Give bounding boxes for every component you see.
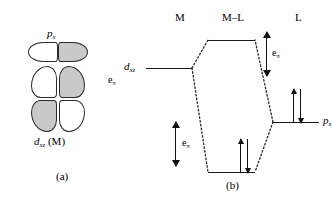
p-subscript: x xyxy=(53,33,56,40)
d-orbital-upper-left-lobe-icon xyxy=(31,66,57,98)
panel-b-mo-diagram: M M–L L dxz px eπ xyxy=(160,0,331,203)
pi-subscript-right: π xyxy=(276,52,279,59)
energy-gap-arrow-left xyxy=(175,122,176,166)
e-pi-label-left: eπ xyxy=(182,138,190,149)
e-pi-label-right: eπ xyxy=(272,48,280,59)
pi-subscript-a: π xyxy=(112,79,115,86)
electron-arrow-px-up xyxy=(293,89,294,123)
d-orbital-lower-right-lobe-icon xyxy=(59,100,85,132)
energy-level-label-dxz: dxz xyxy=(124,61,135,74)
correlation-line-px-antibonding xyxy=(255,40,273,122)
energy-level-label-px: px xyxy=(323,115,332,128)
p-orbital-right-lobe-icon xyxy=(58,42,88,62)
pi-subscript-left: π xyxy=(186,142,189,149)
electron-arrow-px-down xyxy=(300,89,301,123)
electron-arrow-bonding-up xyxy=(240,139,241,173)
px-subscript-b: x xyxy=(329,120,332,127)
correlation-line-dxz-antibonding xyxy=(192,40,208,68)
e-pi-interaction-label-a: eπ xyxy=(108,75,116,86)
correlation-line-dxz-bonding xyxy=(192,68,208,172)
p-orbital-label: px xyxy=(47,28,56,41)
electron-arrow-bonding-down xyxy=(247,139,248,173)
dxz-subscript-b: xz xyxy=(130,66,136,73)
d-orbital-label: dxz (M) xyxy=(34,136,65,149)
panel-a-orbital-overlap: px eπ dxz (M) (a) xyxy=(0,0,160,203)
caption-a: (a) xyxy=(56,171,68,182)
energy-level-px xyxy=(273,122,319,123)
orbital-overlap-drawing xyxy=(28,42,106,134)
d-orbital-upper-right-lobe-icon xyxy=(59,66,85,98)
energy-gap-arrow-right xyxy=(266,32,267,76)
energy-level-dxz xyxy=(146,68,192,69)
d-orbital-lower-left-lobe-icon xyxy=(31,100,57,132)
caption-b: (b) xyxy=(226,180,239,191)
energy-level-antibonding xyxy=(208,40,255,41)
correlation-line-px-bonding xyxy=(255,122,273,172)
d-suffix-metal: (M) xyxy=(45,135,65,147)
p-orbital-left-lobe-icon xyxy=(28,42,58,62)
